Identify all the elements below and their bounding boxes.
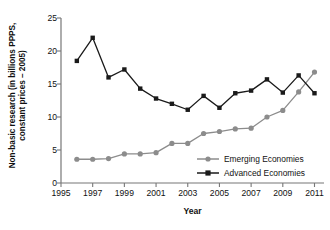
series-line-1 — [77, 38, 315, 110]
legend-item-emerging-economies: Emerging Economies — [196, 153, 305, 165]
data-point-marker — [312, 91, 316, 95]
legend-marker-square-icon — [196, 168, 220, 178]
data-point-marker — [201, 131, 206, 136]
data-point-marker — [217, 129, 222, 134]
series-line-0 — [77, 72, 315, 159]
y-axis-tick-label: 15 — [35, 80, 57, 89]
x-axis-tick-label: 2007 — [234, 189, 268, 198]
data-point-marker — [186, 108, 190, 112]
data-point-marker — [249, 88, 253, 92]
data-point-marker — [233, 126, 238, 131]
data-point-marker — [281, 90, 285, 94]
data-point-marker — [106, 156, 111, 161]
data-point-marker — [154, 96, 158, 100]
y-axis-tick-labels: 0510152025 — [33, 18, 57, 183]
data-point-marker — [169, 141, 174, 146]
legend-item-advanced-economies: Advanced Economies — [196, 167, 305, 179]
y-axis-tick-label: 20 — [35, 47, 57, 56]
chart-container: Non-basic research (in billions PPPS, co… — [0, 0, 330, 230]
data-point-marker — [280, 108, 285, 113]
x-axis-tick-label: 2003 — [171, 189, 205, 198]
y-axis-title: Non-basic research (in billions PPPS, co… — [1, 3, 35, 188]
data-point-marker — [122, 67, 126, 71]
legend-label-emerging-economies: Emerging Economies — [224, 155, 304, 163]
data-point-marker — [170, 102, 174, 106]
data-point-marker — [90, 157, 95, 162]
data-point-marker — [138, 151, 143, 156]
data-point-marker — [201, 94, 205, 98]
data-point-marker — [185, 141, 190, 146]
data-point-marker — [122, 151, 127, 156]
chart-legend: Emerging Economies Advanced Economies — [196, 153, 305, 179]
x-axis-tick-label: 2001 — [139, 189, 173, 198]
data-point-marker — [138, 86, 142, 90]
data-point-marker — [74, 157, 79, 162]
x-axis-tick-label: 2005 — [202, 189, 236, 198]
y-axis-title-line-2: constant prices – 2005) — [18, 50, 28, 141]
data-point-marker — [153, 150, 158, 155]
legend-label-advanced-economies: Advanced Economies — [224, 169, 305, 177]
x-axis-tick-label: 1999 — [107, 189, 141, 198]
legend-marker-circle-icon — [196, 154, 220, 164]
y-axis-tick-label: 10 — [35, 113, 57, 122]
x-axis-tick-label: 2009 — [266, 189, 300, 198]
y-axis-tick-label: 0 — [35, 179, 57, 188]
data-point-marker — [296, 89, 301, 94]
x-axis-tick-label: 2011 — [297, 189, 330, 198]
data-point-marker — [90, 36, 94, 40]
data-point-marker — [312, 70, 317, 75]
y-axis-tick-label: 25 — [35, 14, 57, 23]
y-axis-title-line-1: Non-basic research (in billions PPPS, — [8, 23, 18, 169]
data-point-marker — [75, 59, 79, 63]
y-axis-tick-label: 5 — [35, 146, 57, 155]
data-point-marker — [233, 91, 237, 95]
data-point-marker — [106, 75, 110, 79]
data-point-marker — [296, 73, 300, 77]
data-point-marker — [264, 114, 269, 119]
data-point-marker — [217, 106, 221, 110]
data-point-marker — [265, 77, 269, 81]
x-axis-title: Year — [55, 206, 330, 216]
x-axis-tick-label: 1995 — [44, 189, 78, 198]
data-point-marker — [249, 126, 254, 131]
x-axis-tick-label: 1997 — [76, 189, 110, 198]
x-axis-tick-labels: 199519971999200120032005200720092011 — [61, 189, 324, 203]
